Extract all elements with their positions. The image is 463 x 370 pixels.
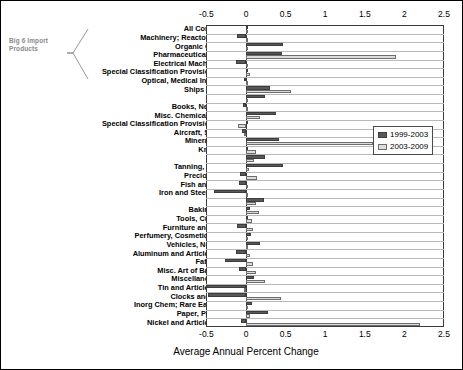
bar-2003-2009 (246, 297, 281, 300)
bar-2003-2009 (246, 219, 252, 222)
bar-2003-2009 (246, 38, 248, 41)
x-axis-tick-label: 2 (402, 329, 407, 339)
bar-2003-2009 (246, 323, 420, 326)
x-axis-tick-label: 1.5 (359, 9, 371, 19)
grid-line (206, 111, 444, 112)
x-axis-tick-label: 2 (402, 9, 407, 19)
bar-2003-2009 (246, 116, 260, 119)
x-axis-tick-label: 2.5 (438, 9, 450, 19)
bar-2003-2009 (246, 280, 265, 283)
legend-swatch-icon (378, 132, 387, 138)
grid-line (206, 275, 444, 276)
bar-2003-2009 (246, 176, 257, 179)
x-axis-tick-label: 1.5 (359, 329, 371, 339)
grid-line (206, 163, 444, 164)
x-axis-tick-label: 1 (323, 329, 328, 339)
grid-line (206, 68, 444, 69)
bar-2003-2009 (246, 306, 248, 309)
bar-1999-2003 (208, 293, 246, 296)
bar-2003-2009 (246, 150, 256, 153)
bar-1999-2003 (239, 267, 246, 270)
bar-2003-2009 (246, 254, 250, 257)
bar-2003-2009 (246, 211, 259, 214)
grid-line (206, 241, 444, 242)
bar-1999-2003 (239, 181, 246, 184)
bar-2003-2009 (246, 55, 396, 58)
bar-2003-2009 (246, 107, 248, 110)
grid-line (206, 77, 444, 78)
x-axis-tick-label: 0 (244, 9, 249, 19)
bar-1999-2003 (246, 95, 265, 98)
legend-label: 2003-2009 (390, 142, 428, 151)
grid-line (206, 198, 444, 199)
bar-1999-2003 (206, 285, 246, 288)
bar-1999-2003 (246, 43, 283, 46)
grid-line (206, 42, 444, 43)
bar-1999-2003 (214, 190, 246, 193)
bar-1999-2003 (237, 34, 247, 37)
plot-area (246, 25, 444, 327)
grid-line (206, 206, 444, 207)
bar-2003-2009 (246, 202, 256, 205)
x-axis-tick-label: 0.5 (280, 9, 292, 19)
bar-1999-2003 (225, 259, 246, 262)
grid-line (206, 120, 444, 121)
x-axis-tick-label: 2.5 (438, 329, 450, 339)
bar-2003-2009 (246, 30, 248, 33)
grid-line (206, 301, 444, 302)
legend-label: 1999-2003 (390, 130, 428, 139)
bar-1999-2003 (236, 60, 246, 63)
bar-2003-2009 (246, 159, 254, 162)
grid-line (206, 215, 444, 216)
bar-2003-2009 (246, 47, 248, 50)
bar-2003-2009 (246, 142, 373, 145)
chart-figure: Big 6 Import Products All CommoditiesMac… (0, 0, 463, 370)
bar-2003-2009 (246, 262, 253, 265)
bar-2003-2009 (246, 314, 250, 317)
bar-1999-2003 (246, 242, 260, 245)
chart-legend: 1999-20032003-2009 (373, 126, 433, 155)
bar-2003-2009 (246, 228, 253, 231)
x-axis-title: Average Annual Percent Change (173, 346, 318, 357)
grid-line (206, 232, 444, 233)
bar-2003-2009 (246, 64, 248, 67)
bar-2003-2009 (246, 168, 249, 171)
bar-2003-2009 (246, 245, 248, 248)
bar-2003-2009 (246, 193, 248, 196)
x-axis-tick-label: -0.5 (199, 9, 214, 19)
x-axis-tick-label: 0 (244, 329, 249, 339)
grid-line (206, 51, 444, 52)
legend-item: 1999-2003 (378, 130, 428, 139)
bar-2003-2009 (246, 73, 250, 76)
bar-2003-2009 (246, 237, 248, 240)
x-axis-tick-label: 1 (323, 9, 328, 19)
grid-line (206, 94, 444, 95)
bar-1999-2003 (237, 224, 246, 227)
x-axis-tick-label: 0.5 (280, 329, 292, 339)
bar-2003-2009 (246, 81, 248, 84)
bar-2003-2009 (244, 133, 246, 136)
bar-2003-2009 (246, 185, 248, 188)
plot-frame (206, 25, 444, 327)
grid-line (206, 85, 444, 86)
bar-2003-2009 (246, 271, 256, 274)
bar-2003-2009 (246, 99, 248, 102)
bar-1999-2003 (246, 121, 248, 124)
grid-line (206, 310, 444, 311)
bar-1999-2003 (236, 250, 246, 253)
bar-2003-2009 (244, 288, 246, 291)
legend-item: 2003-2009 (378, 142, 428, 151)
bar-2003-2009 (238, 124, 246, 127)
x-axis-tick-label: -0.5 (199, 329, 214, 339)
legend-swatch-icon (378, 144, 387, 150)
bar-1999-2003 (246, 164, 283, 167)
bar-2003-2009 (246, 90, 291, 93)
